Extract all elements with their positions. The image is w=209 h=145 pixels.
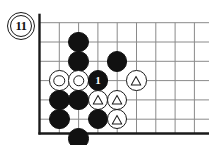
circle-marker-icon xyxy=(73,75,85,87)
go-stone-black[interactable] xyxy=(68,51,88,71)
go-stone-white[interactable] xyxy=(126,70,146,90)
triangle-marker-icon xyxy=(92,95,103,106)
go-stone-white[interactable] xyxy=(49,70,69,90)
diagram-number-label: 11 xyxy=(8,13,34,39)
stone-move-number: 1 xyxy=(89,71,107,89)
triangle-marker-icon xyxy=(112,95,123,106)
triangle-marker-icon xyxy=(112,114,123,125)
go-stone-black[interactable] xyxy=(49,90,69,110)
go-stone-black[interactable] xyxy=(49,109,69,129)
go-stone-black[interactable] xyxy=(68,90,88,110)
go-stone-white[interactable] xyxy=(68,70,88,90)
circle-marker-icon xyxy=(54,75,66,87)
go-diagram-figure: 11 1 xyxy=(0,0,209,145)
diagram-number-badge: 11 xyxy=(7,12,35,40)
go-stone-black[interactable] xyxy=(68,128,88,145)
go-stone-black[interactable] xyxy=(68,32,88,52)
go-stone-white[interactable] xyxy=(88,90,108,110)
go-stone-black[interactable] xyxy=(107,51,127,71)
triangle-marker-icon xyxy=(131,75,142,86)
go-stone-black[interactable]: 1 xyxy=(88,70,108,90)
